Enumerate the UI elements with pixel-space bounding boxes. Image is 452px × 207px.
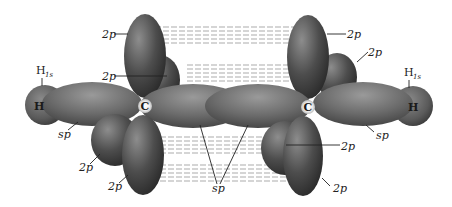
label-2p-top-right-upper: 2p [346,28,361,41]
carbon-right-label: C [304,101,313,114]
pi-overlap-top-lower [187,65,297,81]
label-2p-bottom-right-upper: 2p [340,140,355,153]
label-2p-top-right-lower: 2p [367,46,382,59]
label-2p-bottom-right-lower: 2p [332,182,347,195]
hydrogen-left-label: H [34,100,44,113]
pi-overlap-top-upper [155,27,297,43]
label-sp-center: sp [212,182,225,195]
p-orbital-lobe-bottom-right-front [283,116,323,196]
label-2p-top-left-upper: 2p [101,28,116,41]
hydrogen-right-label: H [408,101,418,114]
acetylene-orbital-diagram: C C H H H 1s H 1s 2p 2p 2p 2p sp sp sp 2… [0,0,452,207]
h1s-left-label-sub: 1s [45,71,53,79]
p-orbital-lobe-top-left-front [124,14,166,98]
h1s-right-label-sub: 1s [413,73,421,81]
label-sp-right: sp [376,129,389,142]
label-sp-left: sp [58,128,71,141]
p-orbital-lobe-top-right-front [287,15,329,99]
carbon-left-label: C [141,100,150,113]
label-2p-top-left-lower: 2p [101,70,116,83]
sp-orbital-right-outer [313,82,413,126]
p-orbital-lobe-bottom-left-front [122,115,164,195]
